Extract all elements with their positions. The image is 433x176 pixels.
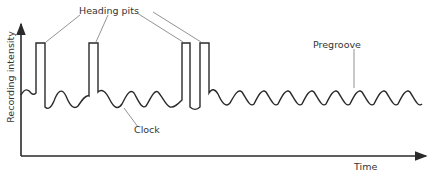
pregroove-label: Pregroove (313, 39, 361, 50)
x-axis-label: Time (353, 161, 377, 172)
clock-label: Clock (134, 124, 160, 135)
recording-intensity-diagram: Heading pits Pregroove Clock Time Record… (0, 0, 433, 176)
heading-pits-label: Heading pits (79, 5, 139, 16)
y-axis-label: Recording intensity (5, 31, 16, 123)
signal-waveform (21, 43, 422, 109)
